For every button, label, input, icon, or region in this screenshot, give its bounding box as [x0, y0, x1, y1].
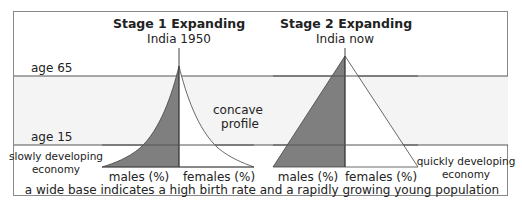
concave-label-line2: profile: [221, 117, 259, 131]
stage1-males-area: [102, 66, 179, 167]
stage1-males-label: males (%): [109, 170, 170, 184]
concave-label-line1: concave: [213, 103, 263, 117]
slow-economy-label-line2: economy: [32, 163, 80, 175]
stage2-females-area: [345, 56, 418, 167]
stage2-males-area: [273, 56, 345, 167]
pyramid-stage2: [273, 48, 418, 167]
stage2-subtitle: India now: [316, 32, 374, 46]
age-65-label: age 65: [31, 61, 72, 75]
age-15-label: age 15: [31, 130, 72, 144]
caption: a wide base indicates a high birth rate …: [25, 183, 499, 197]
stage1-subtitle: India 1950: [147, 32, 211, 46]
slow-economy-label-line1: slowly developing: [9, 150, 103, 162]
stage2-males-label: males (%): [278, 170, 339, 184]
quick-economy-label-line1: quickly developing: [417, 155, 516, 167]
stage2-title: Stage 2 Expanding: [280, 17, 412, 31]
stage1-females-label: females (%): [183, 170, 255, 184]
quick-economy-label-line2: economy: [442, 168, 490, 180]
stage1-title: Stage 1 Expanding: [113, 17, 245, 31]
stage2-females-label: females (%): [345, 170, 417, 184]
